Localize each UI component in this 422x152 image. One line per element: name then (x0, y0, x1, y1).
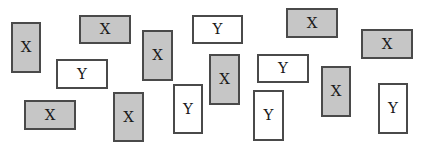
card-label: X (123, 110, 134, 125)
card-label: Y (213, 22, 223, 37)
card-label: Y (264, 108, 274, 123)
card-label: X (45, 108, 56, 123)
card-x: X (113, 92, 144, 142)
card-label: Y (388, 101, 398, 116)
card-y: Y (257, 54, 309, 83)
card-x: X (79, 15, 131, 44)
card-label: X (100, 22, 111, 37)
card-label: X (331, 84, 342, 99)
card-y: Y (56, 59, 108, 89)
card-x: X (286, 8, 338, 38)
card-y: Y (378, 83, 408, 134)
card-label: Y (77, 67, 87, 82)
card-y: Y (173, 84, 203, 134)
card-x: X (361, 29, 413, 59)
card-x: X (11, 22, 41, 73)
card-label: X (382, 37, 393, 52)
card-label: Y (183, 102, 193, 117)
card-label: X (21, 40, 32, 55)
card-label: X (307, 16, 318, 31)
card-x: X (24, 100, 76, 130)
card-label: Y (278, 61, 288, 76)
card-x: X (321, 66, 351, 117)
card-label: X (152, 48, 163, 63)
card-x: X (209, 54, 240, 105)
card-x: X (142, 30, 173, 81)
card-y: Y (253, 90, 284, 141)
card-y: Y (192, 15, 243, 44)
card-label: X (219, 72, 230, 87)
diagram-canvas: X X Y X Y X X X Y Y X Y X X Y (0, 0, 422, 152)
